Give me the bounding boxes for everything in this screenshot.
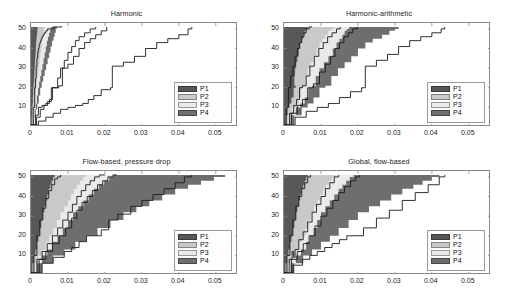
legend-item-P3[interactable]: P3 (431, 249, 481, 257)
legend-swatch-P4 (431, 258, 450, 264)
x-axis-tick-label: 0.05 (452, 277, 484, 284)
subplot-4: Global, flow-based102030405000.010.020.0… (0, 0, 505, 294)
legend-swatch-P2 (431, 242, 450, 248)
legend-label: P3 (453, 249, 462, 257)
legend-label: P4 (453, 257, 462, 265)
legend-item-P4[interactable]: P4 (431, 257, 481, 265)
x-axis-tick-label: 0.01 (304, 277, 336, 284)
figure-canvas: Harmonic102030405000.010.020.030.040.05P… (0, 0, 505, 294)
y-axis-tick-label: 40 (259, 192, 279, 199)
x-axis-tick-label: 0 (267, 277, 299, 284)
x-axis-tick-label: 0.04 (415, 277, 447, 284)
subplot-title: Global, flow-based (253, 157, 505, 166)
legend-swatch-P1 (431, 234, 450, 240)
legend-item-P2[interactable]: P2 (431, 241, 481, 249)
y-axis-tick-label: 30 (259, 211, 279, 218)
x-axis-tick-label: 0.02 (341, 277, 373, 284)
x-axis-tick-label: 0.03 (378, 277, 410, 284)
y-axis-tick-label: 20 (259, 231, 279, 238)
y-axis-tick-label: 50 (259, 172, 279, 179)
y-axis-tick-label: 10 (259, 250, 279, 257)
legend-label: P2 (453, 241, 462, 249)
legend: P1P2P3P4 (427, 230, 485, 271)
legend-item-P1[interactable]: P1 (431, 233, 481, 241)
legend-label: P1 (453, 233, 462, 241)
legend-swatch-P3 (431, 250, 450, 256)
